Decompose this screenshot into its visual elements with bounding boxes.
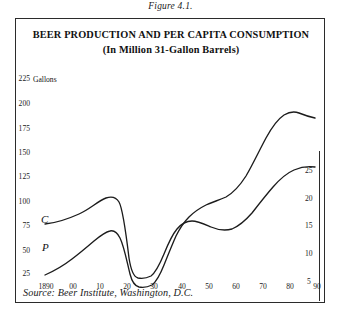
- chart-plot-area: 225 Gallons 200 175 150 125 100 75 50 25…: [16, 19, 324, 301]
- series-path-production: [45, 112, 315, 287]
- source-note: Source: Beer Institute, Washington, D.C.: [23, 287, 193, 298]
- series-path-consumption: [45, 167, 315, 279]
- chart-svg: [16, 19, 324, 301]
- figure-box: BEER PRODUCTION AND PER CAPITA CONSUMPTI…: [15, 18, 325, 303]
- figure-caption: Figure 4.1.: [0, 1, 341, 11]
